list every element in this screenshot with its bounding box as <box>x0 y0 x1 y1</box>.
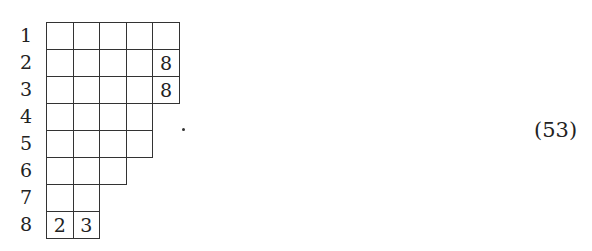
row-label: 8 <box>20 211 36 238</box>
tableau-cell <box>46 184 74 212</box>
tableau-cell <box>99 49 127 77</box>
row-label: 1 <box>20 22 36 49</box>
tableau-cell <box>99 157 127 185</box>
tableau-cell <box>99 130 127 158</box>
tableau-cell <box>99 22 127 50</box>
period-dot <box>182 128 185 131</box>
tableau-cell <box>73 157 101 185</box>
tableau-cell <box>46 76 74 104</box>
row-label: 2 <box>20 49 36 76</box>
tableau-cell <box>152 22 180 50</box>
row-label: 7 <box>20 184 36 211</box>
tableau-cell <box>73 22 101 50</box>
tableau-cell <box>126 76 154 104</box>
tableau-cell: 8 <box>152 49 180 77</box>
tableau-cell <box>99 103 127 131</box>
row-label: 4 <box>20 103 36 130</box>
tableau-cell: 8 <box>152 76 180 104</box>
tableau-cell <box>126 49 154 77</box>
row-label: 5 <box>20 130 36 157</box>
tableau-cell: 3 <box>73 211 101 239</box>
tableau-cell <box>73 76 101 104</box>
tableau-cell <box>99 76 127 104</box>
tableau-cell <box>46 49 74 77</box>
equation-number: (53) <box>534 118 577 142</box>
tableau-cell <box>126 22 154 50</box>
row-label: 6 <box>20 157 36 184</box>
tableau-cell <box>73 130 101 158</box>
tableau-cell <box>73 103 101 131</box>
row-label: 3 <box>20 76 36 103</box>
tableau-cell <box>46 157 74 185</box>
tableau-cell <box>126 130 154 158</box>
tableau-cell <box>46 130 74 158</box>
tableau-cell <box>46 22 74 50</box>
tableau-cell <box>126 103 154 131</box>
tableau-cell <box>73 49 101 77</box>
tableau-cell: 2 <box>46 211 74 239</box>
tableau-cell <box>46 103 74 131</box>
tableau-cell <box>73 184 101 212</box>
